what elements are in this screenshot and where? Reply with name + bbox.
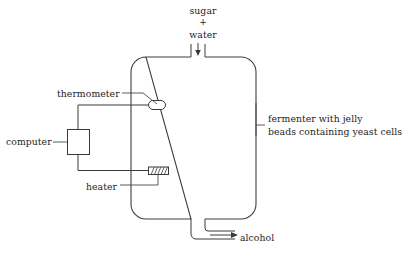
fermenter-vessel-outline — [131, 57, 256, 219]
fermenter-leader-line — [256, 103, 265, 136]
thermometer-label: thermometer — [57, 88, 120, 100]
arrow-down-icon — [195, 43, 201, 56]
fermenter-diagram: sugar + water thermometer computer heate… — [0, 0, 403, 256]
fermenter-description-line-1: fermenter with jelly — [268, 113, 402, 126]
fermenter-description-line-2: beads containing yeast cells — [268, 126, 402, 139]
heater-power-wire — [78, 154, 148, 171]
inlet-solvent-label: water — [168, 29, 238, 41]
thermometer-probe-icon — [149, 101, 166, 110]
thermometer-signal-wire — [78, 105, 148, 129]
outlet-pipe-outer-wall — [191, 219, 235, 239]
heater-leader-line — [120, 175, 158, 185]
inlet-plus-label: + — [168, 17, 238, 29]
computer-box-icon — [68, 130, 90, 155]
computer-label: computer — [6, 136, 52, 148]
arrow-right-icon — [210, 232, 238, 238]
fermenter-description-label: fermenter with jelly beads containing ye… — [268, 113, 402, 138]
inlet-substrate-label: sugar — [168, 5, 238, 17]
outlet-product-label: alcohol — [240, 232, 274, 244]
heater-label: heater — [86, 181, 117, 193]
heating-element-icon — [149, 167, 169, 175]
outlet-pipe-inner-wall — [205, 219, 235, 231]
